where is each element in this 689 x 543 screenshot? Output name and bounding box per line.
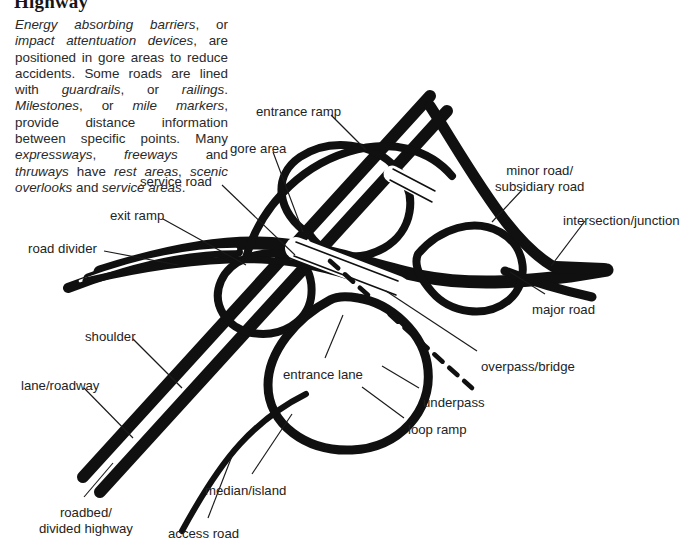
label-entrance-lane: entrance lane xyxy=(283,367,363,383)
highway-diagram-page: Highway Energy absorbing barriers, or im… xyxy=(0,0,689,543)
label-major-road: major road xyxy=(532,302,595,318)
label-roadbed: roadbed/ divided highway xyxy=(39,505,133,536)
intersection-junction-node xyxy=(556,267,604,269)
label-intersection: intersection/junction xyxy=(563,213,680,229)
label-overpass-bridge: overpass/bridge xyxy=(481,359,575,375)
label-exit-ramp: exit ramp xyxy=(110,208,164,224)
leader-lane-roadway xyxy=(84,388,133,438)
label-road-divider: road divider xyxy=(28,241,97,257)
label-entrance-ramp: entrance ramp xyxy=(256,104,341,120)
label-lane-roadway: lane/roadway xyxy=(21,378,99,394)
access-road-path xyxy=(182,394,306,531)
label-gore-area: gore area xyxy=(230,141,286,157)
label-service-road: service road xyxy=(140,174,212,190)
label-underpass: underpass xyxy=(423,395,485,411)
label-minor-road: minor road/ subsidiary road xyxy=(495,163,584,194)
label-shoulder: shoulder xyxy=(85,329,136,345)
leader-entrance-lane xyxy=(325,315,343,358)
label-access-road: access road xyxy=(168,526,239,542)
leader-underpass xyxy=(382,366,419,388)
label-loop-ramp: loop ramp xyxy=(408,422,467,438)
roadway-ink xyxy=(68,96,607,531)
leader-shoulder xyxy=(133,339,182,388)
label-median-island: median/island xyxy=(205,483,286,499)
interchange-diagram xyxy=(0,0,689,543)
leader-loop-ramp xyxy=(362,387,404,418)
